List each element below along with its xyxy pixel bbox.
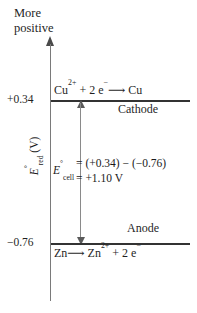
cell-symbol-main: E: [53, 164, 60, 176]
cell-potential-rows: = (+0.34) − (−0.76) = +1.10 V: [76, 156, 166, 185]
anode-electrons: 2 e: [122, 246, 136, 260]
axis-title-subscript: red: [36, 156, 45, 166]
anode-plus-sign: +: [112, 246, 119, 260]
cathode-reactant: Cu: [54, 83, 68, 97]
cathode-electrons: 2 e: [89, 83, 103, 97]
anode-reactant: Zn: [54, 246, 67, 260]
cell-potential-expression: = (+0.34) − (−0.76): [76, 156, 166, 171]
cathode-electrode-label: Cathode: [118, 103, 158, 116]
anode-product: Zn: [88, 246, 101, 260]
cell-symbol-degree: °: [60, 159, 63, 168]
anode-product-charge: 2+: [101, 241, 109, 250]
cathode-half-reaction: Cu2+ + 2 e−⟶ Cu: [54, 84, 142, 97]
cathode-reactant-charge: 2+: [68, 78, 76, 87]
cathode-electron-charge: −: [104, 78, 108, 87]
anode-reaction-arrow-icon: ⟶: [67, 246, 84, 260]
axis-title-degree: °: [23, 165, 32, 168]
anode-electron-charge: −: [136, 241, 140, 250]
potential-ladder-diagram: More positive E°red (V) +0.34 −0.76 Cu2+…: [0, 0, 197, 313]
axis-direction-line-2: positive: [14, 21, 54, 35]
axis-title-unit: (V): [28, 137, 40, 153]
cathode-reaction-arrow-icon: ⟶: [108, 83, 125, 97]
tick-label-bottom: −0.76: [7, 236, 34, 249]
cell-symbol-subscript: cell: [63, 173, 74, 182]
axis-direction-line-1: More: [14, 6, 41, 20]
anode-half-reaction: Zn⟶ Zn2+ + 2 e−: [54, 247, 141, 260]
anode-level-line: [51, 243, 190, 245]
anode-electrode-label: Anode: [127, 222, 159, 235]
cell-potential-symbol: E°cell: [53, 163, 74, 178]
cathode-product: Cu: [128, 83, 142, 97]
cell-potential-result: = +1.10 V: [76, 171, 166, 186]
y-axis-title: E°red (V): [28, 116, 40, 196]
axis-direction-label: More positive: [14, 6, 74, 36]
cathode-plus-sign: +: [79, 83, 86, 97]
tick-label-top: +0.34: [7, 93, 34, 106]
y-axis-line: [50, 44, 51, 301]
axis-title-symbol: E: [28, 168, 40, 175]
cell-potential-calculation: E°cell = (+0.34) − (−0.76) = +1.10 V: [53, 156, 166, 185]
